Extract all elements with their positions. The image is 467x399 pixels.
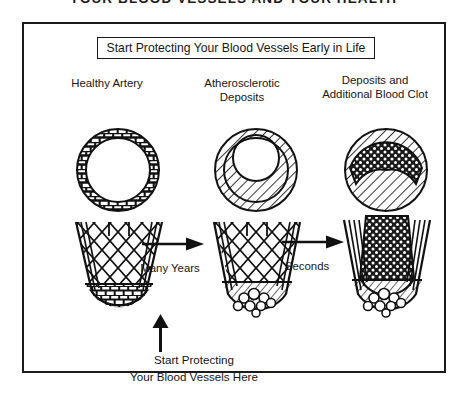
column-header-healthy-artery: Healthy Artery [32, 76, 182, 90]
headline-text: Start Protecting Your Blood Vessels Earl… [107, 41, 366, 55]
longitudinal-clotted [322, 212, 452, 340]
callout-line-1: Start Protecting [64, 351, 324, 368]
arrow-right-seconds [282, 234, 344, 250]
column-header-line: Additional Blood Clot [300, 87, 450, 101]
cross-section-healthy-artery [66, 124, 170, 216]
callout-line-2: Your Blood Vessels Here [64, 368, 324, 385]
transition-label-seconds: Seconds [272, 260, 342, 272]
banner-title: YOUR BLOOD VESSELS AND YOUR HEALTH [0, 0, 467, 6]
column-header-line: Atherosclerotic [172, 76, 312, 90]
cross-section-atherosclerotic [204, 124, 308, 216]
column-header-line: Deposits [172, 90, 312, 104]
arrow-up-callout [152, 314, 169, 352]
arrow-right-many-years [142, 236, 204, 252]
column-header-atherosclerotic-deposits: Atherosclerotic Deposits [172, 76, 312, 104]
bottom-callout-caption: Start Protecting Your Blood Vessels Here [64, 351, 324, 385]
column-header-line: Deposits and [300, 73, 450, 87]
diagram-panel: Start Protecting Your Blood Vessels Earl… [22, 22, 446, 373]
cross-section-deposits-and-clot [334, 122, 438, 218]
transition-label-many-years: Many Years [132, 262, 208, 274]
column-header-deposits-and-clot: Deposits and Additional Blood Clot [300, 73, 450, 101]
column-header-line: Healthy Artery [32, 76, 182, 90]
longitudinal-atherosclerotic [192, 214, 322, 339]
headline-box: Start Protecting Your Blood Vessels Earl… [97, 37, 375, 59]
